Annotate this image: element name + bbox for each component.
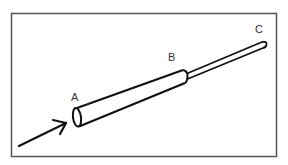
tube-diagram: A B C xyxy=(0,0,288,165)
label-b: B xyxy=(168,51,175,63)
label-c: C xyxy=(255,23,263,35)
diagram-canvas: A B C xyxy=(0,0,288,165)
label-a: A xyxy=(71,91,79,103)
